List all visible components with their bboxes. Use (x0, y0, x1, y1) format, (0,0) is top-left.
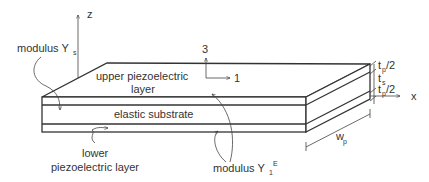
svg-text:x: x (411, 90, 417, 102)
svg-text:modulus Y: modulus Y (17, 42, 69, 54)
svg-text:1: 1 (234, 72, 240, 84)
upper-layer-label-2: layer (131, 83, 155, 95)
z-axis: z (78, 8, 93, 80)
svg-text:/2: /2 (386, 83, 395, 95)
svg-text:s: s (73, 49, 77, 56)
svg-text:z: z (87, 8, 93, 20)
svg-text:/2: /2 (386, 59, 395, 71)
lower-layer-callout: lower piezoelectric layer (51, 128, 139, 174)
svg-text:E: E (273, 160, 278, 167)
svg-text:1: 1 (269, 169, 273, 176)
svg-text:lower: lower (82, 147, 109, 159)
svg-text:piezoelectric layer: piezoelectric layer (51, 161, 139, 173)
svg-text:3: 3 (202, 43, 208, 55)
svg-text:p: p (343, 138, 347, 146)
thickness-dimensions: t p /2 t s t p /2 (370, 59, 395, 104)
upper-layer-label: upper piezoelectric (96, 70, 189, 82)
substrate-label: elastic substrate (114, 108, 193, 120)
svg-text:t: t (378, 83, 381, 95)
bimorph-diagram: z x 3 1 upper piezoelectric layer elasti… (0, 0, 429, 182)
svg-text:t: t (378, 59, 381, 71)
svg-text:modulus Y: modulus Y (213, 162, 265, 174)
